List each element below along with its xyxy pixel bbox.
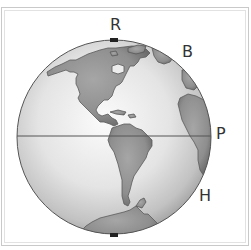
- label-h: H: [199, 188, 211, 204]
- north-pole-marker: [110, 38, 118, 42]
- label-r: R: [110, 17, 121, 33]
- label-p: P: [216, 126, 226, 142]
- arctic-island-small: [110, 51, 118, 56]
- hudson-bay: [112, 64, 124, 74]
- south-pole-marker: [110, 233, 118, 237]
- hispaniola: [128, 114, 136, 118]
- globe-diagram: [0, 0, 251, 250]
- label-b: B: [182, 44, 193, 60]
